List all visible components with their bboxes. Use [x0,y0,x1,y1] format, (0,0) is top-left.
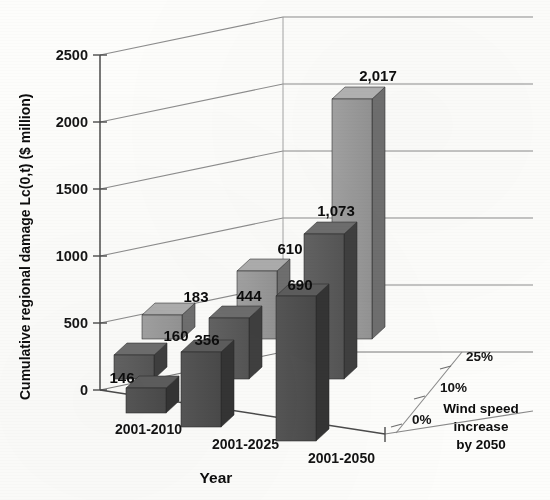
y-tick-2000: 2000 [56,114,88,130]
chart-container: 2500 2000 1500 1000 500 0 Cumulative reg… [0,0,550,500]
z-tick-0: 0% [412,412,432,427]
z-axis-title-line1: Wind speed [443,401,519,416]
y-tick-500: 500 [64,315,88,331]
y-axis-title: Cumulative regional damage Lc(0,t) ($ mi… [17,94,33,401]
bar-2001-2025-0pct [181,340,234,427]
y-tick-2500: 2500 [56,47,88,63]
x-axis-title: Year [200,469,233,486]
value-label-2001-2010-25pct: 183 [183,288,208,305]
y-axis-title-text: Cumulative regional damage Lc(0,t) ($ mi… [17,94,33,401]
value-label-2001-2050-10pct: 1,073 [317,202,355,219]
x-tick-2001-2050: 2001-2050 [308,450,375,466]
bar-2001-2050-0pct [276,284,329,441]
bar-chart-3d: 2500 2000 1500 1000 500 0 Cumulative reg… [0,0,550,500]
value-label-2001-2025-25pct: 610 [277,240,302,257]
y-tick-0: 0 [80,382,88,398]
x-tick-2001-2025: 2001-2025 [212,436,279,452]
z-axis-title: Wind speed increase by 2050 [443,401,519,452]
z-axis-title-line2: increase [454,419,509,434]
z-tick-10: 10% [440,380,467,395]
z-axis-title-line3: by 2050 [456,437,506,452]
value-label-2001-2025-0pct: 356 [194,331,219,348]
x-tick-2001-2010: 2001-2010 [115,421,182,437]
value-label-2001-2010-10pct: 160 [163,327,188,344]
y-tick-1500: 1500 [56,181,88,197]
value-label-2001-2050-0pct: 690 [287,276,312,293]
value-label-2001-2025-10pct: 444 [236,287,262,304]
y-tick-1000: 1000 [56,248,88,264]
y-axis: 2500 2000 1500 1000 500 0 [56,47,107,398]
value-label-2001-2050-25pct: 2,017 [359,67,397,84]
z-tick-25: 25% [466,349,493,364]
value-label-2001-2010-0pct: 146 [109,369,134,386]
